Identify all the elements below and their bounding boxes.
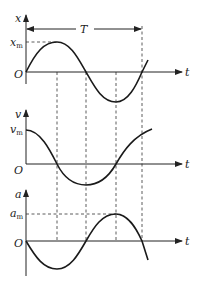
origin-label: O: [14, 68, 23, 81]
graph-acceleration: a t O am: [10, 188, 190, 276]
shm-diagram: x t O xm T v t O vm a t O am: [0, 0, 200, 284]
a-axis-label: a: [15, 188, 22, 201]
amplitude-label: vm: [10, 123, 23, 137]
quarter-period-dashes: [57, 26, 142, 241]
graph-velocity: v t O vm: [10, 108, 190, 185]
t-axis-label: t: [185, 235, 190, 248]
amplitude-label: xm: [10, 36, 23, 50]
graph-displacement: x t O xm T: [10, 12, 190, 102]
x-axis-label: x: [15, 12, 22, 25]
t-axis-label: t: [185, 158, 190, 171]
velocity-curve: [26, 129, 152, 185]
origin-label: O: [14, 237, 23, 250]
origin-label: O: [14, 164, 23, 177]
t-axis-label: t: [185, 66, 190, 79]
v-axis-label: v: [15, 108, 22, 121]
amplitude-label: am: [10, 207, 24, 221]
